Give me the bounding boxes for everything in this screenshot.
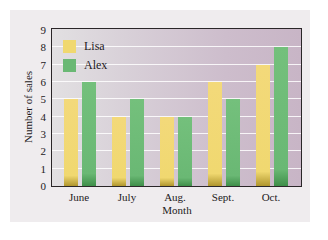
y-tick-label: 6 <box>34 77 46 88</box>
legend-swatch-alex <box>63 59 76 72</box>
y-tick-label: 7 <box>34 60 46 71</box>
bar-lisa-oct <box>256 65 270 186</box>
y-tick-label: 9 <box>34 25 46 36</box>
y-tick-label: 8 <box>34 42 46 53</box>
legend-label-alex: Alex <box>84 58 107 73</box>
bar-alex-oct <box>274 47 288 186</box>
x-tick-label: Aug. <box>155 191 195 203</box>
bar-lisa-aug <box>160 117 174 186</box>
x-tick-label: June <box>59 191 99 203</box>
x-axis-label: Month <box>157 204 197 216</box>
legend-label-lisa: Lisa <box>84 39 105 54</box>
x-tick-label: Sept. <box>203 191 243 203</box>
x-tick-label: July <box>107 191 147 203</box>
y-tick-label: 4 <box>34 112 46 123</box>
legend-item-alex: Alex <box>63 58 107 72</box>
legend-swatch-lisa <box>63 40 76 53</box>
bar-lisa-sept <box>208 82 222 186</box>
y-tick-label: 0 <box>34 181 46 192</box>
y-tick-label: 3 <box>34 129 46 140</box>
y-tick-label: 5 <box>34 94 46 105</box>
bar-lisa-june <box>64 99 78 186</box>
y-tick-label: 1 <box>34 164 46 175</box>
bar-alex-sept <box>226 99 240 186</box>
legend-item-lisa: Lisa <box>63 39 105 53</box>
y-tick-label: 2 <box>34 146 46 157</box>
y-axis-label: Number of sales <box>22 57 34 157</box>
bar-alex-july <box>130 99 144 186</box>
bar-alex-aug <box>178 117 192 186</box>
bar-lisa-july <box>112 117 126 186</box>
bar-alex-june <box>82 82 96 186</box>
x-tick-label: Oct. <box>251 191 291 203</box>
